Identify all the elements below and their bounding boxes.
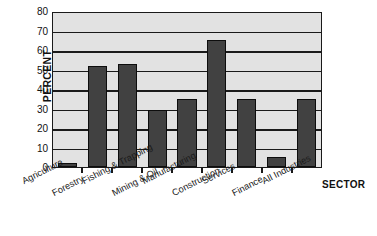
bar-slot: [291, 13, 321, 167]
y-tick-label: 50: [26, 66, 48, 76]
bar: [148, 110, 167, 167]
bar: [207, 40, 226, 167]
bar-slot: [113, 13, 143, 167]
y-tick-label: 40: [26, 85, 48, 95]
bar-slot: [261, 13, 291, 167]
y-tick-label: 80: [26, 7, 48, 17]
y-tick-label: 20: [26, 124, 48, 134]
bar-chart-figure: PERCENT 01020304050607080 AgricultureFor…: [0, 0, 377, 236]
x-axis-label: Finance: [230, 174, 264, 198]
y-tick-label: 70: [26, 27, 48, 37]
bar-slot: [202, 13, 232, 167]
y-axis-tick-labels: 01020304050607080: [26, 12, 48, 168]
x-axis-category-labels: AgricultureForestryFishing & TrappingMin…: [0, 168, 377, 228]
bar-slot: [83, 13, 113, 167]
bar-slot: [232, 13, 262, 167]
bar-slot: [172, 13, 202, 167]
bar-slot: [53, 13, 83, 167]
plot-area: [52, 12, 322, 168]
y-tick-label: 60: [26, 46, 48, 56]
bar-series: [53, 13, 321, 167]
bar: [88, 66, 107, 167]
y-tick-label: 10: [26, 144, 48, 154]
y-tick-label: 30: [26, 105, 48, 115]
bar: [237, 99, 256, 167]
x-axis-title: SECTOR: [322, 179, 365, 190]
